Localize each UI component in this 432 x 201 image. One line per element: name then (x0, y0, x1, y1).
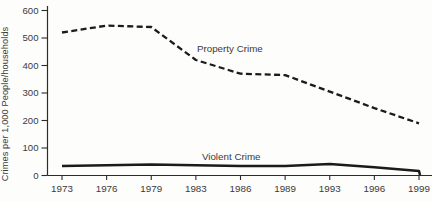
y-axis-title: Crimes per 1,000 People/households (0, 26, 10, 181)
crime-rates-line-chart: Crimes per 1,000 People/households 01002… (0, 0, 432, 201)
series-label-violent-crime: Violent Crime (202, 151, 261, 162)
x-tick-label: 1976 (96, 183, 118, 194)
y-tick-label: 600 (22, 5, 38, 16)
y-tick-label: 200 (22, 115, 38, 126)
plot-area: 0100200300400500600197319761979198319861… (22, 5, 432, 194)
y-tick-label: 0 (33, 170, 38, 181)
line-chart-canvas: Crimes per 1,000 People/households 01002… (0, 0, 432, 201)
x-tick-label: 1986 (230, 183, 252, 194)
y-tick-label: 400 (22, 60, 38, 71)
x-tick-label: 1993 (319, 183, 341, 194)
series-label-property-crime: Property Crime (197, 43, 263, 54)
x-tick-label: 1973 (51, 183, 73, 194)
property-crime-line (62, 26, 419, 124)
y-tick-label: 300 (22, 87, 38, 98)
x-tick-label: 1979 (140, 183, 162, 194)
x-tick-label: 1999 (408, 183, 430, 194)
x-tick-label: 1996 (363, 183, 385, 194)
violent-crime-line (62, 164, 420, 175)
y-tick-label: 100 (22, 142, 38, 153)
x-tick-label: 1983 (185, 183, 207, 194)
x-tick-label: 1989 (274, 183, 296, 194)
y-tick-label: 500 (22, 32, 38, 43)
